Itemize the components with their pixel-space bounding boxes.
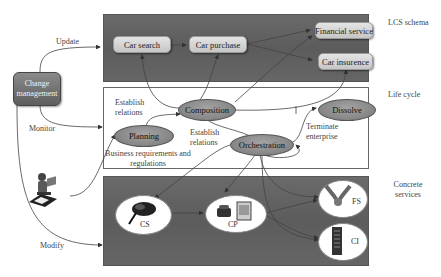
concrete-services-label: Concrete services xyxy=(388,180,428,200)
modify-label: Modify xyxy=(40,241,64,251)
person-at-laptop-icon xyxy=(27,170,67,208)
dissolve-node[interactable]: Dissolve xyxy=(318,99,376,121)
concrete-services-label-line1: Concrete xyxy=(388,180,428,190)
update-label: Update xyxy=(56,37,79,47)
car-insurance-node[interactable]: Car insurence xyxy=(318,53,373,70)
lcs-schema-label: LCS schema xyxy=(388,18,429,28)
ci-service[interactable] xyxy=(318,223,368,261)
terminate-enterprise-label: Terminate enterprise xyxy=(306,122,338,142)
cs-label: CS xyxy=(140,220,150,229)
orchestration-node[interactable]: Orchestration xyxy=(230,134,294,156)
change-management-line1: Change xyxy=(17,79,58,89)
establish-relations-label-1: Establish relations xyxy=(115,98,144,118)
life-cycle-label: Life cycle xyxy=(388,90,420,100)
composition-node[interactable]: Composition xyxy=(178,99,236,121)
business-requirements-label: Business requirements and regulations xyxy=(103,149,193,169)
ci-label: CI xyxy=(351,237,359,246)
cp-label: CP xyxy=(228,220,238,229)
concrete-services-label-line2: services xyxy=(388,190,428,200)
fs-label: FS xyxy=(352,197,361,206)
handshake-icon xyxy=(324,184,352,216)
financial-service-node[interactable]: Financial service xyxy=(315,22,373,39)
change-management-node[interactable]: Change management xyxy=(13,72,61,106)
establish-relations-label-2: Establish relations xyxy=(190,128,219,148)
monitor-label: Monitor xyxy=(29,124,55,134)
planning-node[interactable]: Planning xyxy=(114,125,174,147)
change-management-line2: management xyxy=(17,89,58,99)
car-search-node[interactable]: Car search xyxy=(113,36,171,53)
car-purchase-node[interactable]: Car purchase xyxy=(189,36,247,53)
server-tower-icon xyxy=(331,227,343,259)
